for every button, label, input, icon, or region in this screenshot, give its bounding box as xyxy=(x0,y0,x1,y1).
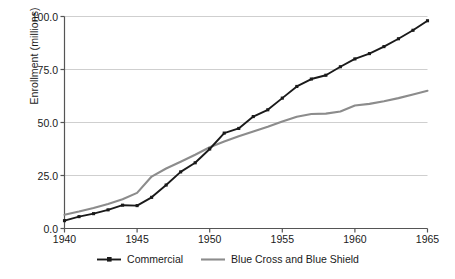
y-tick-label: 100.0 xyxy=(14,11,58,23)
y-tick-label: 0.0 xyxy=(14,223,58,235)
data-point-marker xyxy=(165,183,168,186)
x-tick-label: 1940 xyxy=(53,233,76,245)
data-point-marker xyxy=(223,132,226,135)
data-point-marker xyxy=(237,127,240,130)
legend-item-1[interactable]: Commercial xyxy=(96,253,183,265)
legend-item-2[interactable]: Blue Cross and Blue Shield xyxy=(200,253,359,265)
y-tick-label: 25.0 xyxy=(14,170,58,182)
x-tick-label: 1955 xyxy=(271,233,294,245)
x-axis-tick-marks xyxy=(65,229,428,233)
x-tick-label: 1945 xyxy=(125,233,148,245)
data-point-marker xyxy=(426,19,429,22)
data-point-marker xyxy=(281,97,284,100)
data-point-marker xyxy=(179,170,182,173)
data-point-marker xyxy=(63,219,66,222)
data-point-marker xyxy=(339,65,342,68)
chart-figure: Enrollment (millions) 0.025.050.075.0100… xyxy=(0,0,455,279)
data-point-marker xyxy=(411,29,414,32)
data-point-marker xyxy=(295,85,298,88)
legend-swatch-line-marker-icon xyxy=(96,254,122,265)
series-2 xyxy=(65,91,428,215)
data-point-marker xyxy=(252,115,255,118)
x-tick-label: 1950 xyxy=(198,233,221,245)
chart-legend: CommercialBlue Cross and Blue Shield xyxy=(0,253,455,265)
data-point-marker xyxy=(121,204,124,207)
data-point-marker xyxy=(353,57,356,60)
data-point-marker xyxy=(77,215,80,218)
x-tick-label: 1960 xyxy=(343,233,366,245)
y-tick-label: 50.0 xyxy=(14,117,58,129)
data-point-marker xyxy=(382,45,385,48)
y-tick-label: 75.0 xyxy=(14,64,58,76)
data-point-marker xyxy=(194,161,197,164)
data-point-marker xyxy=(136,204,139,207)
data-point-marker xyxy=(397,37,400,40)
data-point-marker xyxy=(310,77,313,80)
data-point-marker xyxy=(92,212,95,215)
series-1 xyxy=(63,19,429,222)
legend-label: Blue Cross and Blue Shield xyxy=(231,253,359,265)
legend-swatch-line-icon xyxy=(200,254,226,265)
legend-label: Commercial xyxy=(127,253,183,265)
y-axis-tick-labels: 0.025.050.075.0100.0 xyxy=(14,0,58,279)
series-line xyxy=(65,91,428,215)
data-point-marker xyxy=(208,147,211,150)
series-line xyxy=(65,21,428,221)
gridlines xyxy=(65,17,428,176)
x-tick-label: 1965 xyxy=(416,233,439,245)
data-point-marker xyxy=(150,196,153,199)
data-point-marker xyxy=(368,52,371,55)
data-point-marker xyxy=(266,108,269,111)
data-point-marker xyxy=(107,208,110,211)
data-series xyxy=(63,19,429,222)
data-point-marker xyxy=(324,74,327,77)
